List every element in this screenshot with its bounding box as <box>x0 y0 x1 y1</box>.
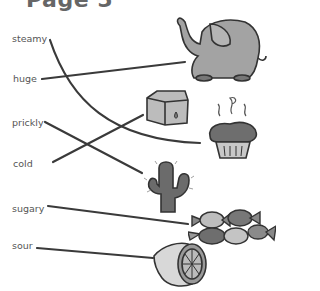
line-cold-ice <box>53 115 143 162</box>
line-sour-lemon <box>37 248 153 258</box>
lemon-icon <box>152 240 210 290</box>
muffin-icon <box>206 96 266 164</box>
elephant-icon <box>170 12 270 90</box>
ice-cube-icon <box>143 88 191 128</box>
